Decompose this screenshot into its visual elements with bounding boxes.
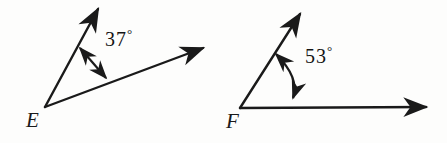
figure-angle-E — [45, 9, 203, 107]
ray-F-upper — [240, 14, 300, 108]
diagram-canvas: E F 37° 53° — [0, 0, 447, 143]
degree-symbol-F: ° — [327, 43, 332, 58]
ray-E-lower — [45, 48, 203, 107]
angle-figures-svg — [0, 0, 447, 143]
angle-value-E: 37 — [105, 28, 127, 50]
angle-marker-E-double-arrow — [80, 48, 106, 78]
degree-symbol-E: ° — [127, 26, 132, 41]
angle-value-F: 53 — [305, 45, 327, 67]
angle-measure-label-F: 53° — [305, 44, 332, 66]
vertex-label-E: E — [26, 110, 39, 131]
angle-measure-label-E: 37° — [105, 27, 132, 49]
angle-marker-F-arc — [276, 54, 295, 98]
figure-angle-F — [240, 14, 426, 108]
vertex-label-F: F — [226, 111, 239, 132]
ray-F-horizontal — [240, 107, 426, 108]
